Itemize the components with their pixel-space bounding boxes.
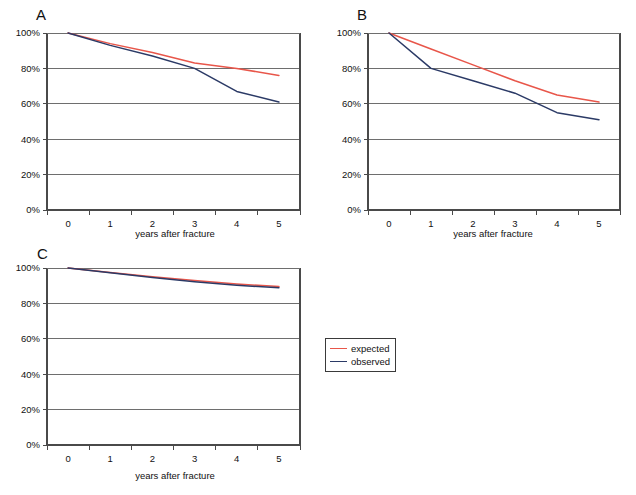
svg-text:4: 4 xyxy=(234,453,239,464)
svg-text:60%: 60% xyxy=(21,333,41,344)
svg-text:80%: 80% xyxy=(21,298,41,309)
panel-letter-c: C xyxy=(37,245,48,262)
svg-text:5: 5 xyxy=(596,218,601,229)
chart-panel-a: A 0%20%40%60%80%100%012345 years after f… xyxy=(0,0,318,248)
svg-text:20%: 20% xyxy=(21,404,41,415)
plot-area-c: 0%20%40%60%80%100%012345 xyxy=(0,240,318,477)
svg-text:1: 1 xyxy=(108,453,113,464)
svg-text:0%: 0% xyxy=(26,204,40,215)
svg-text:40%: 40% xyxy=(21,134,41,145)
legend-label-observed: observed xyxy=(351,355,390,368)
panel-letter-a: A xyxy=(36,6,47,23)
chart-legend: expected observed xyxy=(325,338,396,372)
svg-text:2: 2 xyxy=(150,453,155,464)
svg-text:100%: 100% xyxy=(16,27,41,38)
legend-swatch-observed xyxy=(330,361,347,362)
svg-text:0%: 0% xyxy=(26,439,40,450)
svg-text:60%: 60% xyxy=(21,98,41,109)
svg-text:40%: 40% xyxy=(342,134,362,145)
legend-entry-observed[interactable]: observed xyxy=(330,355,390,368)
x-axis-label-c: years after fracture xyxy=(95,470,255,481)
svg-text:60%: 60% xyxy=(342,98,362,109)
svg-text:0: 0 xyxy=(65,453,70,464)
svg-text:0%: 0% xyxy=(347,204,361,215)
svg-text:3: 3 xyxy=(192,453,197,464)
svg-text:100%: 100% xyxy=(337,27,362,38)
x-axis-label-b: years after fracture xyxy=(413,228,573,239)
legend-label-expected: expected xyxy=(351,342,390,355)
chart-panel-c: C 0%20%40%60%80%100%012345 years after f… xyxy=(0,240,318,495)
chart-panel-b: B 0%20%40%60%80%100%012345 years after f… xyxy=(318,0,636,248)
legend-swatch-expected xyxy=(330,348,347,349)
plot-area-b: 0%20%40%60%80%100%012345 xyxy=(318,0,636,235)
svg-text:20%: 20% xyxy=(21,169,41,180)
plot-area-a: 0%20%40%60%80%100%012345 xyxy=(0,0,318,235)
svg-text:0: 0 xyxy=(65,218,70,229)
svg-text:0: 0 xyxy=(386,218,391,229)
svg-text:80%: 80% xyxy=(342,63,362,74)
svg-text:40%: 40% xyxy=(21,369,41,380)
svg-text:100%: 100% xyxy=(16,262,41,273)
x-axis-label-a: years after fracture xyxy=(95,228,255,239)
svg-text:5: 5 xyxy=(276,453,281,464)
svg-text:80%: 80% xyxy=(21,63,41,74)
svg-text:20%: 20% xyxy=(342,169,362,180)
legend-entry-expected[interactable]: expected xyxy=(330,342,390,355)
panel-letter-b: B xyxy=(357,6,368,23)
svg-text:5: 5 xyxy=(276,218,281,229)
